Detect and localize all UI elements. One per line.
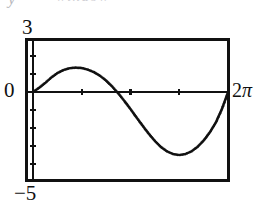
plot-canvas (25, 38, 230, 182)
x-axis-max-label: 2π (232, 80, 252, 100)
plot-curve (32, 66, 230, 156)
pi-symbol: π (242, 79, 252, 101)
y-axis-max-label: 3 (22, 17, 33, 38)
y-axis-origin-label: 0 (4, 80, 15, 101)
sine-function-plot: 3 0 −5 2π (0, 0, 254, 215)
x-axis-max-number: 2 (232, 79, 242, 101)
plot-axes (25, 38, 230, 182)
y-axis-min-label: −5 (14, 183, 36, 204)
